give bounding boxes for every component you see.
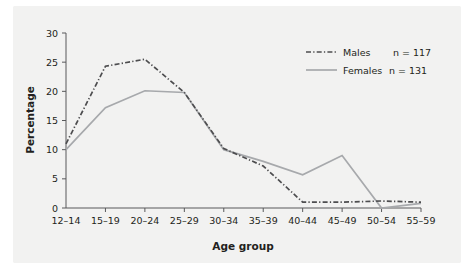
series-line-females xyxy=(66,91,421,208)
legend-label-females: Females xyxy=(343,65,382,76)
x-tick-label: 55–59 xyxy=(407,215,436,226)
x-tick-label: 25–29 xyxy=(170,215,199,226)
series-line-males xyxy=(66,59,421,202)
x-tick-label: 50–54 xyxy=(367,215,396,226)
y-tick-label: 20 xyxy=(46,86,58,97)
legend-label-males: Males xyxy=(343,47,371,58)
legend: Males n = 117 Females n = 131 xyxy=(306,47,431,76)
y-tick-label: 25 xyxy=(46,57,58,68)
y-axis-title: Percentage xyxy=(24,86,36,154)
y-tick-label: 15 xyxy=(46,115,58,126)
x-tick-label: 12–14 xyxy=(52,215,81,226)
line-chart: 051015202530 12–1415–1920–2425–2930–3435… xyxy=(0,0,474,277)
x-tick-label: 30–34 xyxy=(209,215,238,226)
y-axis-ticks: 051015202530 xyxy=(46,28,66,214)
axes-group xyxy=(66,33,421,208)
x-tick-label: 20–24 xyxy=(130,215,159,226)
series-group xyxy=(66,59,421,208)
x-tick-label: 45–49 xyxy=(328,215,357,226)
figure-container: 051015202530 12–1415–1920–2425–2930–3435… xyxy=(0,0,474,277)
x-tick-label: 15–19 xyxy=(91,215,120,226)
legend-count-males: n = 117 xyxy=(393,47,431,58)
x-tick-label: 40–44 xyxy=(288,215,317,226)
y-tick-label: 0 xyxy=(52,203,58,214)
x-tick-label: 35–39 xyxy=(249,215,278,226)
x-axis-ticks: 12–1415–1920–2425–2930–3435–3940–4445–49… xyxy=(52,208,436,226)
x-axis-title: Age group xyxy=(212,240,274,252)
y-tick-label: 5 xyxy=(52,173,58,184)
legend-count-females: n = 131 xyxy=(389,65,427,76)
y-tick-label: 30 xyxy=(46,28,58,39)
y-tick-label: 10 xyxy=(46,144,58,155)
